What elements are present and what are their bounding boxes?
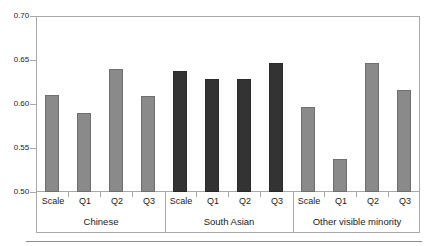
x-tick-mark [228,192,229,197]
grouped-bar-chart: 0.700.650.600.550.50 ScaleQ1Q2Q3ChineseS… [0,0,434,246]
x-category-label: Q1 [325,196,357,207]
group-label-other-visible-minority: Other visible minority [293,216,421,228]
bar-chinese-q2 [109,69,123,192]
bottom-divider [26,241,422,242]
y-tick-label: 0.70 [14,12,29,20]
x-category-label: Q3 [389,196,421,207]
y-tick-label: 0.65 [14,56,29,64]
y-axis: 0.700.650.600.550.50 [0,0,36,246]
x-tick-mark [324,192,325,197]
bar-chinese-scale [45,95,59,192]
group-label-chinese: Chinese [37,216,165,228]
bar-chinese-q1 [77,113,91,192]
x-category-label: Q3 [261,196,293,207]
bar-other-visible-minority-q1 [333,159,347,192]
x-tick-mark [68,192,69,197]
x-tick-mark [196,192,197,197]
group-label-south-asian: South Asian [165,216,293,228]
x-axis-label-band: ScaleQ1Q2Q3ChineseScaleQ1Q2Q3South Asian… [36,192,420,233]
x-category-label: Q2 [101,196,133,207]
x-category-label: Q1 [197,196,229,207]
bar-other-visible-minority-q2 [365,63,379,192]
x-tick-mark [388,192,389,197]
x-category-label: Scale [37,196,69,207]
y-tick-label: 0.60 [14,100,29,108]
bar-other-visible-minority-q3 [397,90,411,192]
x-tick-mark [260,192,261,197]
x-category-label: Q2 [357,196,389,207]
x-tick-mark [100,192,101,197]
bars-layer [36,16,420,192]
x-category-label: Scale [293,196,325,207]
bar-south-asian-q1 [205,79,219,192]
bar-south-asian-q2 [237,79,251,192]
bar-other-visible-minority-scale [301,107,315,192]
y-tick-label: 0.55 [14,144,29,152]
x-tick-mark [132,192,133,197]
x-category-label: Scale [165,196,197,207]
y-tick-label: 0.50 [14,188,29,196]
x-category-label: Q1 [69,196,101,207]
bar-chinese-q3 [141,96,155,192]
bar-south-asian-scale [173,71,187,192]
x-category-label: Q3 [133,196,165,207]
x-tick-mark [356,192,357,197]
bar-south-asian-q3 [269,63,283,192]
x-category-label: Q2 [229,196,261,207]
